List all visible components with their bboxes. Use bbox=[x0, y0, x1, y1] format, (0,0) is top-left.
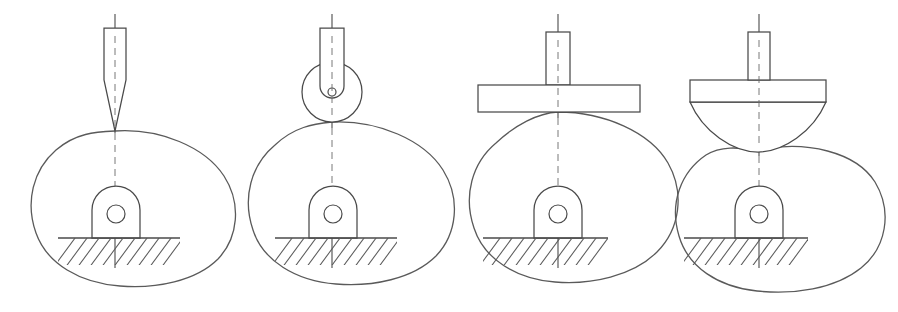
ground-hatching-1 bbox=[50, 234, 186, 272]
follower-collar-plate-4 bbox=[690, 80, 826, 102]
panel-roller: Roller follower bbox=[248, 14, 454, 285]
knife-edge-follower-1 bbox=[104, 28, 126, 131]
panel-spherical-face: Spherical-face follower bbox=[675, 14, 885, 292]
cam-shaft-bore-3 bbox=[549, 205, 567, 223]
panel-knife-edge: Knife-edge follower bbox=[31, 14, 235, 287]
flat-face-plate-3 bbox=[478, 85, 640, 112]
cam-follower-figure: Knife-edge follower bbox=[0, 0, 898, 312]
cam-shaft-bore-2 bbox=[324, 205, 342, 223]
figure-canvas: Knife-edge follower bbox=[0, 0, 898, 312]
cam-shaft-bore-4 bbox=[750, 205, 768, 223]
cam-shaft-bore-1 bbox=[107, 205, 125, 223]
ground-hatching-4 bbox=[676, 234, 812, 272]
ground-hatching-3 bbox=[475, 234, 611, 272]
ground-hatching-2 bbox=[267, 234, 403, 272]
panel-flat-face: Flat-face follower bbox=[469, 14, 678, 283]
spherical-face-shoe-4 bbox=[690, 102, 826, 152]
